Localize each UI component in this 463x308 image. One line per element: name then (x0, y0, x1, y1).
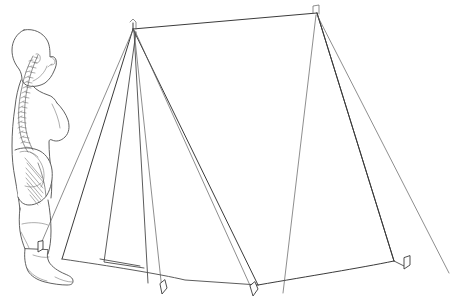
front-upright-inner (134, 31, 148, 283)
foot (25, 249, 73, 285)
guy-line-front-right (135, 31, 253, 292)
ground-edge-rear-tail (394, 261, 404, 266)
guy-line-rear-right (317, 15, 449, 273)
front-panel-left-edge (62, 29, 133, 259)
knee-line (22, 223, 48, 225)
thigh (19, 208, 25, 249)
ground-edge-side (258, 261, 394, 285)
a-frame-tent (38, 5, 449, 296)
tent-scale-drawing: A-frame ridge tent with human figure for… (0, 0, 463, 308)
guy-line-rear-left (283, 15, 316, 293)
pelvis (15, 148, 52, 205)
peg-rear-right (404, 256, 410, 269)
head (12, 30, 56, 87)
guy-line-front-centre (134, 30, 162, 290)
drawing-canvas: A-frame ridge tent with human figure for… (0, 0, 463, 308)
rear-panel-left-edge (317, 13, 394, 261)
neck (33, 86, 57, 103)
ridge-line (133, 13, 317, 29)
torso-front (49, 103, 69, 198)
